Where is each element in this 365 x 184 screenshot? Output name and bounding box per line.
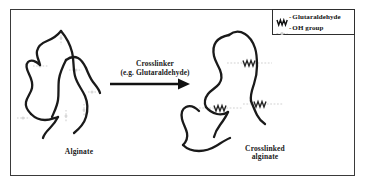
- arrow-caption-line1: Crosslinker: [136, 59, 174, 68]
- figure-root: Crosslinker (e.g. Glutaraldehyde) Algina…: [0, 0, 365, 184]
- arrow-caption: Crosslinker (e.g. Glutaraldehyde): [107, 52, 203, 85]
- oh-group-icon: [276, 24, 289, 33]
- arrow-caption-line2: (e.g. Glutaraldehyde): [107, 69, 203, 77]
- legend-separator-1: -: [289, 13, 291, 21]
- legend-label-glutaraldehyde: Glutaraldehyde: [292, 13, 340, 21]
- legend: - Glutaraldehyde - OH group: [272, 9, 355, 35]
- legend-item-glutaraldehyde: - Glutaraldehyde: [276, 12, 354, 22]
- crosslinked-alginate-label: Crosslinked alginate: [210, 145, 320, 162]
- legend-label-oh-group: OH group: [292, 24, 323, 32]
- alginate-label: Alginate: [24, 148, 134, 156]
- legend-separator-2: -: [289, 24, 291, 32]
- legend-item-oh-group: - OH group: [276, 23, 354, 33]
- zigzag-icon: [276, 13, 289, 22]
